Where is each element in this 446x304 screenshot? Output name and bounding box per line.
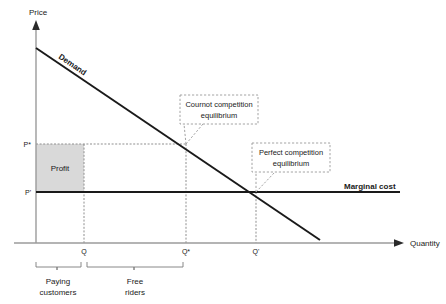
tick-label-q-star: Q* <box>182 248 190 256</box>
economics-diagram: Price Quantity Demand Marginal cost P* P… <box>0 0 446 304</box>
paying-customers-label-line-2: customers <box>40 288 77 297</box>
cournot-callout-line-2: equilibrium <box>201 111 237 120</box>
marginal-cost-label: Marginal cost <box>344 182 396 191</box>
perfect-callout-line-2: equilibrium <box>273 159 309 168</box>
diagram-canvas: Price Quantity Demand Marginal cost P* P… <box>0 0 446 304</box>
y-axis-arrow-icon <box>32 20 40 30</box>
paying-customers-label-line-1: Paying <box>46 277 70 286</box>
free-riders-bracket <box>87 262 183 270</box>
tick-label-q-prime: Q' <box>253 248 260 256</box>
cournot-callout-line-1: Cournot competition <box>185 100 252 109</box>
x-axis-arrow-icon <box>394 239 404 247</box>
tick-label-p-star: P* <box>24 141 32 148</box>
profit-region-label: Profit <box>51 164 70 173</box>
free-riders-label-line-1: Free <box>127 277 144 286</box>
cournot-leader-line-2 <box>186 124 203 144</box>
perfect-leader-line-2 <box>256 172 275 192</box>
y-axis-title: Price <box>29 8 48 17</box>
cournot-leader-line-1 <box>184 124 186 144</box>
tick-label-p-prime: P' <box>25 189 31 196</box>
free-riders-label-line-2: riders <box>125 288 145 297</box>
paying-customers-bracket <box>36 262 81 270</box>
tick-label-q: Q <box>81 248 87 256</box>
x-axis-title: Quantity <box>410 239 440 248</box>
perfect-callout-line-1: Perfect competition <box>259 148 323 157</box>
